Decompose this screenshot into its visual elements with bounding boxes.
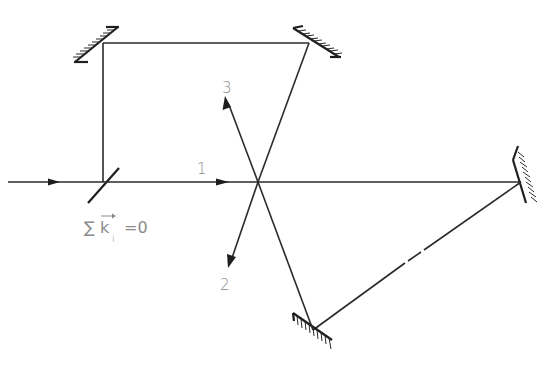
beam-label-2: 2	[220, 276, 230, 294]
mirror-bottom	[293, 313, 332, 349]
beam-1-arrow-icon	[216, 179, 229, 186]
phase-matching-condition: ∑ k i =0	[84, 214, 148, 245]
input-beam	[8, 179, 103, 186]
mirror-top-left	[73, 27, 119, 62]
beam-1	[103, 179, 521, 186]
beam-label-3: 3	[222, 79, 232, 97]
subscript-i: i	[112, 233, 115, 244]
vector-arrowhead-icon	[112, 214, 116, 219]
sum-symbol: ∑	[84, 218, 95, 237]
beam-right-to-bottom	[313, 182, 521, 330]
mirror-top-right	[293, 26, 342, 57]
beam-2-arrow-icon	[227, 254, 236, 268]
equals-zero: =0	[124, 218, 148, 237]
k-vector: k	[100, 218, 110, 237]
beam-bottom-to-crossing	[258, 182, 313, 330]
beam-2	[227, 182, 258, 268]
beam-3	[223, 96, 259, 182]
beam-top-right-to-crossing	[258, 43, 309, 182]
optical-diagram: 3 1 2 ∑ k i =0	[0, 0, 551, 375]
input-arrow-icon	[48, 179, 60, 186]
beam-label-1: 1	[197, 160, 207, 178]
mirror-right	[513, 146, 537, 203]
